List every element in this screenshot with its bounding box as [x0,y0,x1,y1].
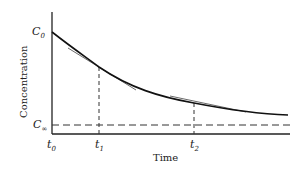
t0-label: t0 [47,138,56,153]
c-infinity-label: C∞ [33,118,47,133]
decay-curve [52,32,288,115]
concentration-time-diagram: C0 C∞ t0 t1 t2 Time Concentration [0,0,301,170]
t2-label: t2 [190,138,199,153]
t1-label: t1 [95,138,104,153]
y-axis-label: Concentration [18,45,29,118]
x-axis-label: Time [153,152,178,163]
c0-label: C0 [32,25,45,40]
